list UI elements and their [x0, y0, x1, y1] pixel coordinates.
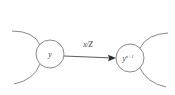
left-lower-arc	[14, 64, 40, 84]
transition-edge	[64, 56, 113, 58]
arrow-head-icon	[108, 55, 116, 61]
source-node-label: y	[47, 50, 52, 59]
right-upper-arc	[140, 33, 168, 48]
left-upper-arc	[12, 31, 40, 45]
edge-label: x/Z	[82, 40, 93, 49]
diagram-canvas: x/Z y yn+1	[0, 0, 175, 95]
right-lower-arc	[140, 68, 166, 87]
diagram-svg: x/Z y yn+1	[0, 0, 175, 95]
target-node-label-superscript: n+1	[126, 54, 134, 59]
